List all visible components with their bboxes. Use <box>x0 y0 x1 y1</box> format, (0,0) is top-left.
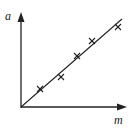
data-point-cross-icon <box>115 24 121 30</box>
x-axis <box>21 104 127 111</box>
y-axis-label: a <box>5 9 11 24</box>
data-point-cross-icon <box>89 38 95 44</box>
x-axis-arrow-icon <box>117 104 127 111</box>
graph <box>0 0 132 128</box>
best-fit-line <box>21 19 122 107</box>
data-point-cross-icon <box>58 74 64 80</box>
y-axis <box>18 12 25 108</box>
x-axis-label: m <box>114 113 123 128</box>
y-axis-arrow-icon <box>18 12 25 22</box>
